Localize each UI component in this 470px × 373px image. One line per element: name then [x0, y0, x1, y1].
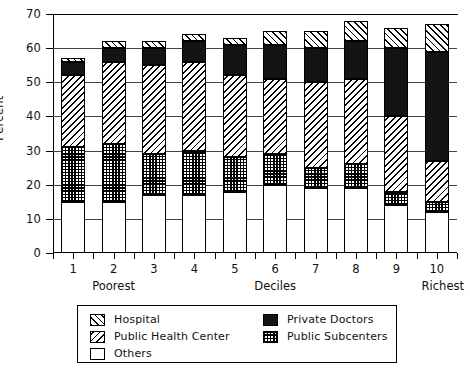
x-tick-edge-0 [53, 253, 54, 259]
x-tick-label-6: 6 [260, 262, 290, 276]
bar-segment-private-doctors-d1 [61, 62, 85, 76]
y-axis-label: Percent [0, 95, 6, 140]
bar-decile-6 [263, 14, 287, 253]
bar-segment-public-health-center-d2 [102, 62, 126, 144]
x-tick-label-8: 8 [341, 262, 371, 276]
y-tick-mark-40 [46, 116, 53, 117]
legend-item-public-subcenters: Public Subcenters [263, 330, 388, 343]
bar-segment-public-subcenters-d6 [263, 154, 287, 185]
bar-segment-hospital-d2 [102, 41, 126, 48]
bar-segment-others-d9 [384, 205, 408, 253]
legend-label: Public Subcenters [287, 330, 388, 343]
bar-segment-private-doctors-d7 [304, 48, 328, 82]
bar-segment-public-health-center-d7 [304, 82, 328, 167]
bar-segment-public-subcenters-d1 [61, 147, 85, 202]
x-tick-label-9: 9 [381, 262, 411, 276]
y-tick-mark-30 [46, 151, 53, 152]
y-tick-label-20: 20 [15, 178, 41, 192]
bar-segment-hospital-d9 [384, 28, 408, 48]
bar-segment-hospital-d3 [142, 41, 166, 48]
bar-segment-public-subcenters-d8 [344, 164, 368, 188]
y-tick-label-50: 50 [15, 75, 41, 89]
legend-swatch-white-icon [90, 348, 105, 360]
bar-segment-private-doctors-d8 [344, 41, 368, 79]
bar-segment-public-subcenters-d4 [182, 151, 206, 195]
x-tick-minor-2 [134, 253, 135, 259]
legend-swatch-checkered-icon [263, 331, 278, 343]
legend: HospitalPublic Health CenterOthersPrivat… [77, 305, 397, 363]
bar-segment-public-subcenters-d7 [304, 168, 328, 188]
bar-segment-public-health-center-d8 [344, 79, 368, 164]
x-tick-minor-9 [417, 253, 418, 259]
x-tick-minor-7 [336, 253, 337, 259]
x-tick-label-4: 4 [179, 262, 209, 276]
bar-segment-public-health-center-d1 [61, 75, 85, 147]
bar-segment-others-d4 [182, 195, 206, 253]
y-tick-label-40: 40 [15, 109, 41, 123]
bar-segment-private-doctors-d9 [384, 48, 408, 116]
bar-segment-public-subcenters-d10 [425, 202, 449, 212]
bar-segment-others-d6 [263, 185, 287, 253]
bar-decile-3 [142, 14, 166, 253]
x-tick-label-1: 1 [58, 262, 88, 276]
legend-item-public-health-center: Public Health Center [90, 330, 230, 343]
bar-decile-8 [344, 14, 368, 253]
chart-root: Percent 010203040506070 12345678910Poore… [0, 0, 470, 373]
bar-decile-9 [384, 14, 408, 253]
bar-segment-public-subcenters-d3 [142, 154, 166, 195]
y-tick-label-10: 10 [15, 212, 41, 226]
bar-segment-hospital-d1 [61, 58, 85, 61]
legend-label: Hospital [114, 313, 160, 326]
legend-swatch-backslash-hatch-icon [90, 331, 105, 343]
bar-segment-private-doctors-d4 [182, 41, 206, 61]
bar-segment-public-health-center-d9 [384, 116, 408, 191]
bar-segment-private-doctors-d10 [425, 52, 449, 161]
x-tick-label-5: 5 [220, 262, 250, 276]
y-tick-mark-60 [46, 48, 53, 49]
bar-segment-private-doctors-d6 [263, 45, 287, 79]
x-tick-label-2: 2 [99, 262, 129, 276]
bar-segment-public-subcenters-d2 [102, 144, 126, 202]
x-tick-mark-8 [356, 253, 357, 259]
bar-segment-hospital-d7 [304, 31, 328, 48]
y-tick-mark-70 [46, 14, 53, 15]
bar-segment-public-subcenters-d5 [223, 157, 247, 191]
legend-item-private-doctors: Private Doctors [263, 313, 374, 326]
x-tick-mark-2 [114, 253, 115, 259]
x-tick-mark-9 [396, 253, 397, 259]
bar-segment-hospital-d5 [223, 38, 247, 45]
bar-segment-public-health-center-d4 [182, 62, 206, 151]
x-tick-minor-6 [295, 253, 296, 259]
x-tick-mark-6 [275, 253, 276, 259]
legend-label: Public Health Center [114, 330, 230, 343]
y-tick-mark-50 [46, 82, 53, 83]
x-tick-edge-1 [457, 253, 458, 259]
x-tick-label-3: 3 [139, 262, 169, 276]
bar-segment-public-health-center-d5 [223, 75, 247, 157]
x-tick-minor-5 [255, 253, 256, 259]
bar-segment-public-health-center-d3 [142, 65, 166, 154]
bar-segment-private-doctors-d5 [223, 45, 247, 76]
legend-swatch-slash-hatch-icon [90, 314, 105, 326]
bar-decile-5 [223, 14, 247, 253]
bar-segment-others-d3 [142, 195, 166, 253]
x-axis-note-right: Richest [403, 279, 470, 293]
bar-segment-others-d7 [304, 188, 328, 253]
bar-segment-public-health-center-d10 [425, 161, 449, 202]
bar-segment-hospital-d10 [425, 24, 449, 51]
x-tick-mark-3 [154, 253, 155, 259]
bar-segment-private-doctors-d2 [102, 48, 126, 62]
y-tick-mark-10 [46, 219, 53, 220]
legend-label: Private Doctors [287, 313, 374, 326]
bar-segment-others-d5 [223, 192, 247, 253]
x-tick-mark-1 [73, 253, 74, 259]
legend-label: Others [114, 347, 152, 360]
x-tick-minor-4 [215, 253, 216, 259]
bar-decile-4 [182, 14, 206, 253]
x-tick-mark-4 [194, 253, 195, 259]
bar-segment-public-health-center-d6 [263, 79, 287, 154]
y-tick-mark-0 [46, 253, 53, 254]
x-tick-mark-10 [437, 253, 438, 259]
bar-segment-others-d2 [102, 202, 126, 253]
bar-segment-hospital-d6 [263, 31, 287, 45]
